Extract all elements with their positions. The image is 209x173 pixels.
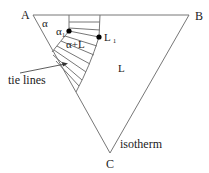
alpha-region-label: α bbox=[42, 17, 48, 29]
L1-label: L1 bbox=[104, 31, 117, 45]
vertex-C-label: C bbox=[106, 157, 114, 171]
tie-lines-label: tie lines bbox=[8, 73, 46, 87]
alpha-plus-L-label: α+L bbox=[66, 38, 85, 50]
alpha1-point bbox=[66, 28, 71, 33]
vertex-A-label: A bbox=[21, 8, 30, 22]
tie-lines-arrow bbox=[20, 62, 68, 73]
L-region-label: L bbox=[118, 62, 125, 74]
L1-point bbox=[96, 34, 101, 39]
liquid-boundary-curve bbox=[76, 15, 100, 92]
ternary-diagram: A B C α α1 L1 α+L L tie lines isotherm bbox=[0, 0, 209, 173]
alpha1-label: α1 bbox=[56, 25, 66, 39]
isotherm-label: isotherm bbox=[120, 137, 163, 151]
vertex-B-label: B bbox=[195, 9, 203, 23]
